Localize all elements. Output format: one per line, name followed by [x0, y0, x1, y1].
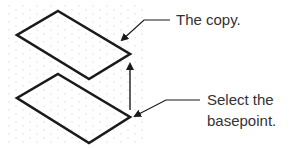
isometric-grid [8, 5, 143, 145]
copy-diagram: The copy. Select the basepoint. [0, 0, 289, 148]
basepoint-label-line1: Select the [207, 91, 274, 109]
basepoint-label-line2: basepoint. [207, 112, 276, 130]
copy-label: The copy. [176, 11, 241, 29]
basepoint-leader-line [135, 100, 200, 116]
